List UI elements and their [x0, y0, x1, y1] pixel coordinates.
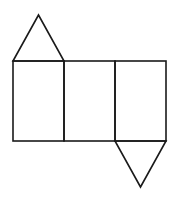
prism-net-diagram: [0, 0, 180, 199]
rectangle-face-left: [13, 61, 64, 141]
rectangle-face-right: [115, 61, 166, 141]
rectangle-face-middle: [64, 61, 115, 141]
bottom-triangle-face: [115, 141, 166, 187]
top-triangle-face: [13, 15, 64, 61]
